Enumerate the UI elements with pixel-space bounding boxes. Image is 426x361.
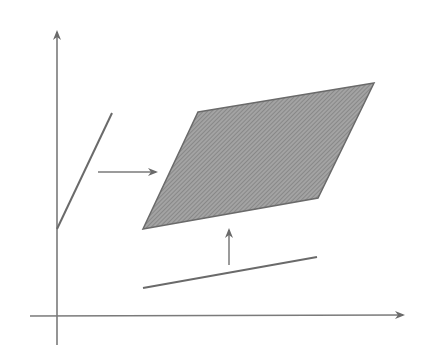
slanted-line-segment <box>57 113 112 229</box>
diagram-canvas <box>0 0 426 361</box>
horizontal-axis <box>30 315 403 316</box>
bottom-line-segment <box>143 257 317 288</box>
shaded-parallelogram <box>143 83 374 229</box>
diagram-svg <box>0 0 426 361</box>
